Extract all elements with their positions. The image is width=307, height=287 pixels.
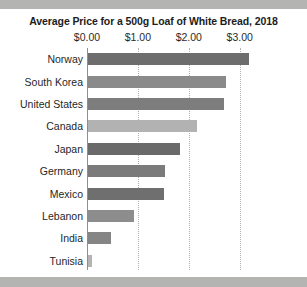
- chart-row: Norway: [0, 48, 307, 70]
- bar-mexico: [88, 188, 164, 200]
- chart-row: Canada: [0, 115, 307, 137]
- category-label-germany: Germany: [40, 165, 83, 177]
- category-label-norway: Norway: [47, 53, 83, 65]
- chart-row: Tunisia: [0, 250, 307, 272]
- category-label-canada: Canada: [46, 120, 83, 132]
- chart-row: Japan: [0, 138, 307, 160]
- bar-lebanon: [88, 210, 134, 222]
- category-label-lebanon: Lebanon: [42, 210, 83, 222]
- chart-row: Germany: [0, 160, 307, 182]
- category-label-india: India: [60, 232, 83, 244]
- chart-row: Lebanon: [0, 205, 307, 227]
- bar-india: [88, 232, 111, 244]
- chart-sheet: Average Price for a 500g Loaf of White B…: [0, 9, 307, 277]
- page-edge-bottom: [0, 277, 307, 287]
- bar-japan: [88, 143, 180, 155]
- page-edge-top: [0, 0, 307, 9]
- bar-norway: [88, 53, 249, 65]
- category-label-mexico: Mexico: [50, 188, 83, 200]
- category-label-south-korea: South Korea: [25, 76, 83, 88]
- bar-south-korea: [88, 76, 226, 88]
- chart-row: India: [0, 227, 307, 249]
- chart-title: Average Price for a 500g Loaf of White B…: [0, 15, 307, 27]
- chart-row: Mexico: [0, 182, 307, 204]
- chart-page: Average Price for a 500g Loaf of White B…: [0, 0, 307, 287]
- x-tick-label-0: $0.00: [74, 31, 100, 43]
- x-axis-tick-labels: $0.00$1.00$2.00$3.00: [0, 31, 307, 45]
- bar-united-states: [88, 98, 224, 110]
- category-label-tunisia: Tunisia: [50, 255, 83, 267]
- bar-canada: [88, 120, 197, 132]
- x-tick-label-3: $3.00: [227, 31, 253, 43]
- category-label-united-states: United States: [20, 98, 83, 110]
- category-label-japan: Japan: [54, 143, 83, 155]
- bar-tunisia: [88, 255, 92, 267]
- chart-row: United States: [0, 93, 307, 115]
- x-tick-label-2: $2.00: [176, 31, 202, 43]
- bar-germany: [88, 165, 165, 177]
- x-tick-label-1: $1.00: [125, 31, 151, 43]
- chart-row: South Korea: [0, 70, 307, 92]
- plot-area: NorwaySouth KoreaUnited StatesCanadaJapa…: [0, 48, 307, 272]
